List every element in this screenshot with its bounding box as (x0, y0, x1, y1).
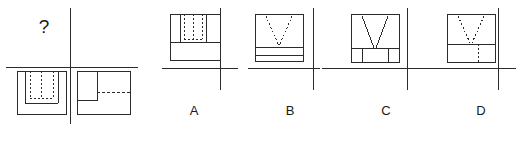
option-b-view (255, 14, 303, 61)
option-c-view (351, 14, 399, 62)
given-view-side (77, 71, 130, 114)
option-d-axes (340, 8, 516, 90)
option-label-d[interactable]: D (469, 103, 493, 119)
option-c-axes (322, 8, 414, 90)
given-view-front (17, 71, 66, 114)
option-label-b[interactable]: B (278, 103, 302, 119)
option-a-view (170, 14, 220, 60)
quadrant-axes (6, 8, 138, 124)
option-b-axes (248, 8, 320, 90)
missing-view-question-mark: ? (34, 17, 54, 37)
option-d-view (447, 14, 495, 62)
puzzle-figure: ? A B C D (0, 0, 522, 142)
option-label-a[interactable]: A (182, 103, 206, 119)
option-label-c[interactable]: C (374, 103, 398, 119)
option-a-axes (162, 8, 238, 90)
drawing-canvas (0, 0, 522, 142)
